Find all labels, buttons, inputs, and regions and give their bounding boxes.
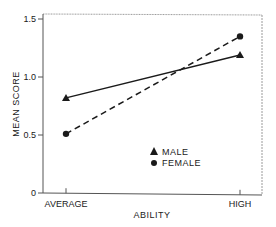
y-tick-label: 0 [31, 188, 36, 198]
series-line [66, 36, 240, 133]
legend-item-male: MALE [150, 147, 189, 157]
legend-label-male: MALE [162, 147, 189, 157]
x-tick-label: HIGH [229, 199, 252, 209]
circle-marker-icon [63, 131, 69, 137]
series-male [62, 51, 244, 101]
line-chart: 00.51.01.5 AVERAGEHIGH ABILITY MEAN SCOR… [0, 0, 276, 227]
y-axis-title: MEAN SCORE [11, 71, 21, 137]
legend-label-female: FEMALE [162, 158, 201, 168]
triangle-marker-icon [150, 147, 158, 155]
legend-item-female: FEMALE [151, 158, 201, 168]
x-axis [43, 193, 262, 195]
x-axis-title: ABILITY [133, 210, 170, 220]
circle-marker-icon [151, 160, 157, 166]
top-border [43, 14, 262, 15]
legend: MALE FEMALE [150, 147, 201, 168]
circle-marker-icon [237, 33, 243, 39]
y-axis-ticks: 00.51.01.5 [23, 14, 43, 198]
y-tick-label: 0.5 [23, 130, 36, 140]
series-line [66, 55, 240, 98]
data-series [62, 33, 244, 137]
triangle-marker-icon [236, 51, 244, 58]
series-female [63, 33, 243, 137]
y-tick-label: 1.5 [23, 14, 36, 24]
y-tick-label: 1.0 [23, 72, 36, 82]
x-tick-label: AVERAGE [45, 199, 88, 209]
x-axis-ticks: AVERAGEHIGH [45, 188, 252, 209]
plot-frame [43, 14, 262, 195]
